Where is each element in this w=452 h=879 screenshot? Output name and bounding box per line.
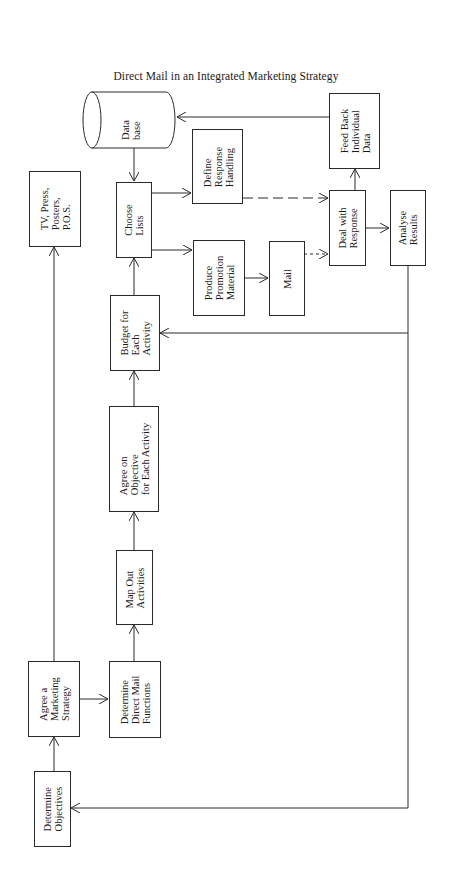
- node-agree-strategy: Agree a Marketing Strategy: [28, 661, 80, 737]
- node-budget: Budget for Each Activity: [110, 295, 160, 371]
- node-produce-promotion-label: Produce Promotion Material: [203, 256, 236, 300]
- node-map-out: Map Out Activities: [116, 550, 153, 625]
- node-determine-objectives-label: Determine Objectives: [42, 787, 64, 832]
- node-define-response-label: Define Response Handling: [201, 146, 234, 186]
- node-feed-back: Feed Back Individual Data: [329, 93, 380, 169]
- node-map-out-label: Map Out Activities: [124, 567, 146, 608]
- node-determine-objectives: Determine Objectives: [34, 771, 71, 847]
- node-mail: Mail: [269, 241, 305, 316]
- node-tv-press-label: TV, Press, Posters, P.O.S.: [39, 188, 72, 231]
- node-feed-back-label: Feed Back Individual Data: [338, 109, 371, 154]
- node-deal-with-response-label: Deal with Response: [337, 207, 359, 248]
- node-choose-lists: Choose Lists: [116, 182, 152, 258]
- node-define-response: Define Response Handling: [192, 129, 243, 204]
- node-determine-dm-functions-label: Determine Direct Mail Functions: [119, 675, 152, 724]
- node-budget-label: Budget for Each Activity: [119, 310, 152, 355]
- node-agree-objective-label: Agree on Objective for Each Activity: [118, 423, 151, 495]
- database-cylinder-end: [83, 92, 101, 148]
- node-tv-press: TV, Press, Posters, P.O.S.: [29, 171, 81, 247]
- node-produce-promotion: Produce Promotion Material: [193, 240, 245, 316]
- node-analyse-results-label: Analyse Results: [397, 211, 419, 245]
- node-agree-objective: Agree on Objective for Each Activity: [109, 406, 159, 512]
- node-agree-strategy-label: Agree a Marketing Strategy: [38, 677, 71, 721]
- node-mail-label: Mail: [282, 269, 293, 289]
- node-deal-with-response: Deal with Response: [329, 190, 366, 266]
- node-choose-lists-label: Choose Lists: [123, 204, 145, 236]
- node-database: Data base: [120, 120, 142, 140]
- node-analyse-results: Analyse Results: [390, 190, 426, 266]
- node-determine-dm-functions: Determine Direct Mail Functions: [109, 661, 161, 738]
